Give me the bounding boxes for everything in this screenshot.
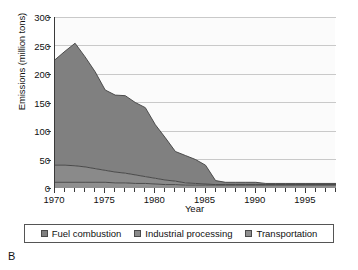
y-axis-tick-mark	[47, 17, 51, 18]
x-axis-tick-mark	[174, 188, 175, 192]
x-axis-tick-mark	[215, 188, 216, 192]
plot-area	[54, 17, 335, 188]
x-axis-tick-mark	[134, 188, 135, 192]
y-axis-tick-label: 250	[4, 40, 50, 51]
x-axis-tick-mark	[235, 188, 236, 192]
y-axis-tick-label: 300	[4, 12, 50, 23]
x-axis-tick-mark	[315, 188, 316, 192]
x-axis-tick-mark	[104, 188, 105, 193]
legend-swatch-icon	[134, 230, 141, 237]
x-axis-tick-mark	[255, 188, 256, 193]
y-axis-tick-label: 50	[4, 154, 50, 165]
y-axis-tick-label: 0	[4, 183, 50, 194]
x-axis-tick-mark	[305, 188, 306, 193]
x-axis-tick-mark	[275, 188, 276, 192]
legend-swatch-icon	[245, 230, 252, 237]
panel-label: B	[8, 250, 15, 262]
x-axis-tick-mark	[295, 188, 296, 192]
x-axis-tick-mark	[245, 188, 246, 192]
y-axis-tick-mark	[47, 160, 51, 161]
y-axis-tick-mark	[47, 103, 51, 104]
x-axis-tick-mark	[54, 188, 55, 193]
x-axis-tick-mark	[164, 188, 165, 192]
legend-item: Industrial processing	[134, 228, 232, 239]
y-axis-tick-mark	[47, 188, 51, 189]
x-axis-tick-mark	[195, 188, 196, 192]
plot-canvas	[54, 17, 335, 188]
legend-item: Fuel combustion	[41, 228, 122, 239]
legend-item-label: Fuel combustion	[52, 228, 122, 239]
x-axis-tick-mark	[154, 188, 155, 193]
chart-legend: Fuel combustionIndustrial processingTran…	[24, 224, 334, 243]
area-chart-svg	[55, 17, 336, 188]
x-axis-tick-mark	[84, 188, 85, 192]
legend-item-label: Industrial processing	[145, 228, 232, 239]
y-axis-ticks: 050100150200250300	[0, 17, 50, 188]
area-band	[55, 43, 336, 184]
x-axis-tick-mark	[64, 188, 65, 192]
y-axis-tick-label: 150	[4, 97, 50, 108]
x-axis-tick-mark	[265, 188, 266, 192]
x-axis-tick-mark	[225, 188, 226, 192]
x-axis-tick-mark	[335, 188, 336, 192]
emissions-area-chart: Emissions (million tons) 050100150200250…	[0, 4, 358, 216]
x-axis-tick-mark	[114, 188, 115, 192]
y-axis-tick-label: 200	[4, 69, 50, 80]
x-axis-tick-mark	[184, 188, 185, 192]
x-axis-tick-mark	[74, 188, 75, 192]
x-axis-tick-mark	[124, 188, 125, 192]
legend-swatch-icon	[41, 230, 48, 237]
y-axis-tick-mark	[47, 131, 51, 132]
x-axis-title: Year	[54, 203, 335, 214]
y-axis-tick-label: 100	[4, 126, 50, 137]
x-axis-tick-mark	[94, 188, 95, 192]
x-axis-tick-mark	[144, 188, 145, 192]
x-axis-tick-mark	[205, 188, 206, 193]
y-axis-tick-mark	[47, 74, 51, 75]
y-axis-tick-mark	[47, 46, 51, 47]
legend-item: Transportation	[245, 228, 317, 239]
x-axis-tick-mark	[285, 188, 286, 192]
legend-item-label: Transportation	[256, 228, 317, 239]
x-axis-tick-mark	[325, 188, 326, 192]
figure-panel-b: Emissions (million tons) 050100150200250…	[0, 0, 358, 270]
